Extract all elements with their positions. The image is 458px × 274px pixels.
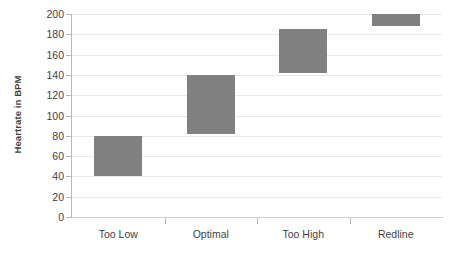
y-axis-tick-mark [66, 156, 71, 157]
gridline [72, 34, 442, 35]
y-axis-tick-mark [66, 34, 71, 35]
x-axis-tick-mark [350, 218, 351, 224]
bar-too-low [94, 136, 142, 177]
x-axis-tick-label: Too High [283, 228, 324, 240]
gridline [72, 176, 442, 177]
y-axis-tick-mark [66, 176, 71, 177]
y-axis-title-label: Heartrate in BPM [12, 75, 23, 153]
y-axis-tick-label: 180 [46, 28, 64, 40]
x-axis-tick-label: Too Low [99, 228, 138, 240]
y-axis-tick-mark [66, 75, 71, 76]
plot-area [72, 14, 442, 217]
y-axis-tick-label: 100 [46, 110, 64, 122]
y-axis-tick-mark [66, 55, 71, 56]
y-axis-tick-label: 20 [52, 191, 64, 203]
x-axis-tick-labels: Too LowOptimalToo HighRedline [72, 228, 442, 250]
bar-optimal [187, 75, 235, 134]
y-axis-tick-label: 0 [58, 211, 64, 223]
y-axis-tick-mark [66, 217, 71, 218]
y-axis-tick-label: 200 [46, 8, 64, 20]
gridline [72, 75, 442, 76]
gridline [72, 116, 442, 117]
x-axis-tick-label: Redline [378, 228, 414, 240]
gridline [72, 95, 442, 96]
x-axis-tick-mark [257, 218, 258, 224]
gridline [72, 197, 442, 198]
chart-container: Heartrate in BPM 02040608010012014016018… [0, 0, 458, 274]
y-axis-tick-mark [66, 197, 71, 198]
y-axis-tick-mark [66, 116, 71, 117]
y-axis-tick-label: 80 [52, 130, 64, 142]
y-axis-tick-labels: 020406080100120140160180200 [34, 0, 68, 228]
y-axis-tick-mark [66, 14, 71, 15]
bar-redline [372, 14, 420, 26]
y-axis-title: Heartrate in BPM [0, 0, 34, 228]
gridline [72, 55, 442, 56]
y-axis-tick-label: 60 [52, 150, 64, 162]
y-axis-tick-label: 160 [46, 49, 64, 61]
x-axis-tick-label: Optimal [193, 228, 229, 240]
y-axis-tick-label: 40 [52, 170, 64, 182]
y-axis-tick-mark [66, 136, 71, 137]
y-axis-tick-mark [66, 95, 71, 96]
x-axis-tick-mark [165, 218, 166, 224]
bar-too-high [279, 29, 327, 73]
y-axis-tick-label: 140 [46, 69, 64, 81]
y-axis-tick-label: 120 [46, 89, 64, 101]
